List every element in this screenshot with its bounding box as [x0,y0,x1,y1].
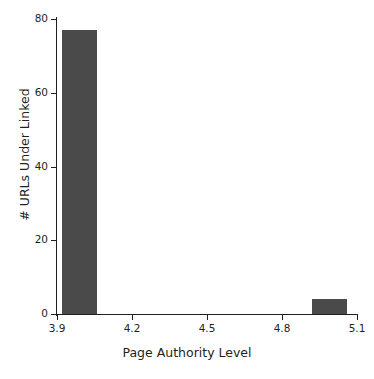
y-tick-label: 20 [35,234,48,245]
histogram-bar [62,30,97,314]
y-tick-mark [51,167,56,168]
y-tick-label: 80 [35,13,48,24]
histogram-figure: 020406080 3.94.24.54.85.1 Page Authority… [0,0,374,379]
x-tick-label: 4.8 [274,322,291,334]
plot-area [57,19,357,314]
y-tick-label: 40 [35,161,48,172]
y-tick-mark [51,19,56,20]
y-tick-mark [51,93,56,94]
histogram-bar [312,299,347,314]
y-tick-label: 60 [35,87,48,98]
x-tick-label: 4.5 [199,322,216,334]
x-tick-mark [207,315,208,320]
x-tick-label: 5.1 [349,322,366,334]
x-tick-mark [357,315,358,320]
y-axis-title: # URLs Under Linked [17,25,32,285]
x-tick-mark [132,315,133,320]
x-tick-label: 4.2 [124,322,141,334]
y-tick-label: 0 [41,308,48,319]
x-axis-title: Page Authority Level [0,345,374,360]
x-tick-mark [57,315,58,320]
x-tick-label: 3.9 [49,322,66,334]
x-tick-mark [282,315,283,320]
y-tick-mark [51,314,56,315]
y-tick-mark [51,240,56,241]
